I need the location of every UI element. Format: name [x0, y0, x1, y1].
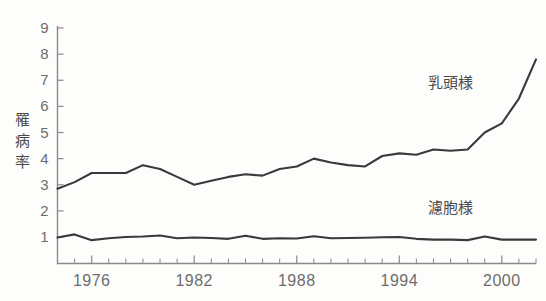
series-line-2 — [58, 234, 537, 240]
y-tick-label: 9 — [40, 19, 48, 36]
y-tick-label: 5 — [40, 124, 48, 141]
x-tick-label: 1994 — [380, 272, 418, 289]
series-annotations: 乳頭様濾胞様 — [428, 74, 473, 217]
y-tick-label: 8 — [40, 45, 48, 62]
x-axis-ticks: 19761982198819942000 — [58, 256, 537, 289]
y-axis-ticks: 123456789 — [40, 19, 63, 245]
x-tick-label: 1988 — [278, 272, 316, 289]
y-axis-title: 罹病率 — [15, 111, 30, 171]
y-tick-label: 3 — [40, 176, 48, 193]
x-tick-label: 1976 — [73, 272, 111, 289]
line-chart: 罹病率 123456789 19761982198819942000 乳頭様濾胞… — [0, 0, 546, 301]
series-label-2: 濾胞様 — [428, 199, 473, 217]
y-tick-label: 6 — [40, 97, 48, 114]
chart-container: 罹病率 123456789 19761982198819942000 乳頭様濾胞… — [0, 0, 546, 301]
series-label-1: 乳頭様 — [428, 74, 473, 92]
y-tick-label: 2 — [40, 202, 48, 219]
y-axis-title-char: 病 — [15, 132, 30, 150]
x-tick-label: 1982 — [175, 272, 213, 289]
y-tick-label: 4 — [40, 150, 48, 167]
axis-lines — [58, 26, 537, 264]
y-axis-title-char: 率 — [15, 153, 30, 171]
y-tick-label: 1 — [40, 228, 48, 245]
x-tick-label: 2000 — [483, 272, 521, 289]
axis-frame — [58, 26, 537, 264]
y-axis-title-char: 罹 — [15, 111, 30, 129]
y-tick-label: 7 — [40, 71, 48, 88]
